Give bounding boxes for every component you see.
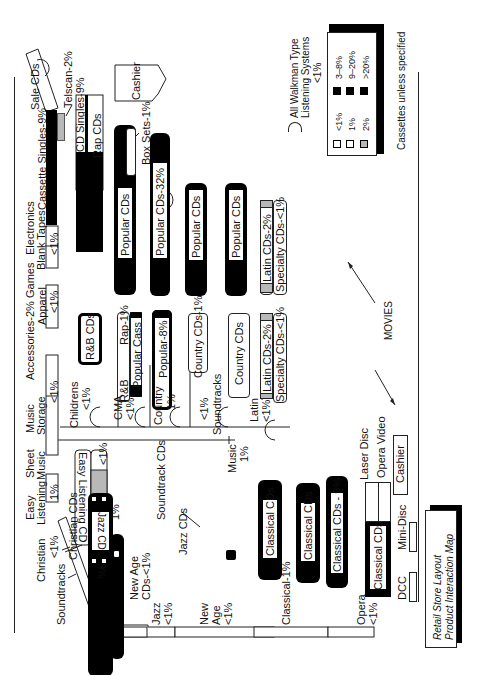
popular-cds-4-label: Popular CDs xyxy=(230,196,242,258)
new-age-sq xyxy=(113,550,120,558)
legend-swatch-1 xyxy=(346,140,354,148)
popular-cds-32-label: Popular CDs-32% xyxy=(154,168,166,256)
legend-label-2: 2% xyxy=(360,118,372,131)
popular-8-top xyxy=(152,310,172,318)
soundtracks-label: Soundtracks xyxy=(55,564,67,625)
childrens-pct: <1% xyxy=(80,388,92,410)
legend-label-3-8: 3–8% xyxy=(333,56,345,79)
sheet-music-2: Music xyxy=(35,451,47,480)
christian-cds-label: Christian CDs xyxy=(67,492,79,560)
telscan-fixture xyxy=(57,113,65,141)
new-age-cds-2: CDs-<1% xyxy=(140,553,152,600)
movies-label: MOVIES xyxy=(383,301,395,340)
latin-label: Latin xyxy=(248,398,260,422)
easy-listening-cd-pct: <1% xyxy=(97,443,109,465)
legend-note: Cassettes unless specified xyxy=(396,32,408,150)
legend-swatch-gt20 xyxy=(360,87,368,95)
legend-swatch-lt1 xyxy=(333,140,341,148)
dcc-label: DCC xyxy=(396,576,408,600)
legend-label-lt1: <1% xyxy=(333,113,345,131)
laser-opera-divider xyxy=(378,482,379,522)
new-age-pct: <1% xyxy=(222,603,234,625)
box-sets-label: Box Sets-1% xyxy=(140,101,152,165)
cma-pct: <1% xyxy=(124,398,136,420)
soundtrack-cds-label: Soundtrack CDs xyxy=(155,440,167,520)
christian-label: Christian xyxy=(35,539,47,582)
jazz-pct: <1% xyxy=(162,603,174,625)
popular-8-label: Popular-8% xyxy=(157,321,169,378)
latin-cds-b-top xyxy=(260,313,273,321)
popular-cass-top xyxy=(130,312,142,318)
walkman-line2: Listening Systems xyxy=(300,37,312,118)
title-line1: Retail Store Layout xyxy=(432,555,444,640)
blank-tapes-pct: <1% xyxy=(48,233,60,255)
popular-cds-1-label: Popular CDs xyxy=(119,194,131,256)
rap-cds-label: Rap CDs xyxy=(91,113,103,158)
classical-cds-1-label: Classical CDs xyxy=(264,488,276,556)
dcc-box xyxy=(409,572,417,602)
popular-cass-label: Popular Cass xyxy=(131,322,143,388)
cashier-top-label: Cashier xyxy=(130,62,142,100)
jazz-cds-end xyxy=(226,550,236,560)
new-age-1: New xyxy=(198,603,210,625)
rap-1-label: Rap-1% xyxy=(118,305,130,345)
cma-label: CMA xyxy=(112,396,124,420)
jazz-sq-1 xyxy=(91,496,97,502)
jazz-sq-2 xyxy=(101,496,107,502)
walkman-line3: <1% xyxy=(312,63,324,83)
mini-disc-box xyxy=(409,522,417,552)
cashier-bottom-label: Cashier xyxy=(394,445,406,483)
popular-cds-3-label: Popular CDs xyxy=(190,196,202,258)
country-cds-label: Country CDs xyxy=(233,322,245,385)
opera-label: Opera xyxy=(355,594,367,625)
title-line2: Product Interaction Map xyxy=(444,534,456,640)
easy-listening-pct: 1% xyxy=(48,484,60,500)
country-label: Country xyxy=(152,386,164,425)
soundtrack-cds-pct: 1% xyxy=(109,504,121,520)
specialty-cds-a-label: Specialty CDs-<1% xyxy=(274,197,286,292)
games-label: Games xyxy=(24,263,36,298)
new-age-cds-1: New Age xyxy=(128,556,140,600)
new-age-2: Age xyxy=(210,605,222,625)
jazz-cds-label: Jazz CDs xyxy=(177,508,189,555)
legend-swatch-2 xyxy=(360,140,368,148)
apparel-label: Apparel xyxy=(36,287,48,325)
classical-cds-9-label: Classical CDs - 9% xyxy=(331,478,343,572)
easy-listening-2: Listening xyxy=(35,481,47,525)
childrens-label: Childrens xyxy=(68,382,80,428)
jazz-label: Jazz xyxy=(150,602,162,625)
soundtracks-mid-label: Soundtracks xyxy=(211,374,223,435)
cd-singles-label: CD Singles-9% xyxy=(74,77,86,152)
rap-cds-black xyxy=(88,190,103,252)
legend-label-1: 1% xyxy=(346,118,358,131)
jazz-cds-9-label: Jazz CDs - 9% xyxy=(94,512,107,550)
latin-cds-a-top xyxy=(260,200,273,208)
music-storage-pct: <1% xyxy=(48,381,60,403)
opera-pct: <1% xyxy=(367,603,379,625)
latin-pct: <1% xyxy=(260,400,272,422)
legend-label-9-20: 9–20% xyxy=(346,51,358,79)
blank-tapes-label: Blank Tapes xyxy=(35,210,47,270)
legend-label-gt20: >20% xyxy=(360,56,372,79)
laser-disc-label: Laser Disc xyxy=(358,428,370,480)
classical-cds-2-label: Classical CDs xyxy=(302,492,314,560)
cassette-singles-label: Cassette Singles-9% xyxy=(36,108,48,210)
mini-disc-label: Mini-Disc xyxy=(396,505,408,550)
music-label: Music xyxy=(226,444,238,473)
latin-cds-a-label: Latin CDs-2% xyxy=(261,214,273,282)
country-cds-1-label: Country CDs-1% xyxy=(192,295,204,378)
music-pct: 1% xyxy=(238,446,250,462)
box-sets-fixture xyxy=(126,128,136,176)
latin-cds-a-bottom xyxy=(260,283,273,293)
country-pct: 1% xyxy=(165,394,177,410)
telscan-label: Telscan-2% xyxy=(62,51,74,108)
sale-cds-label: Sale CDs xyxy=(29,64,41,110)
rnb-cds-label: R&B CDs xyxy=(84,313,96,360)
soundtracks-mid-pct: <1% xyxy=(198,398,210,420)
classical-cds-4-label: Classical CDs xyxy=(372,522,384,590)
classical-label: Classical-1% xyxy=(280,561,292,625)
apparel-pct: <1% xyxy=(48,291,60,313)
latin-cds-b-label: Latin CDs-2% xyxy=(261,324,273,392)
christian-pct: <1% xyxy=(48,536,60,558)
legend-swatch-9-20 xyxy=(346,87,354,95)
